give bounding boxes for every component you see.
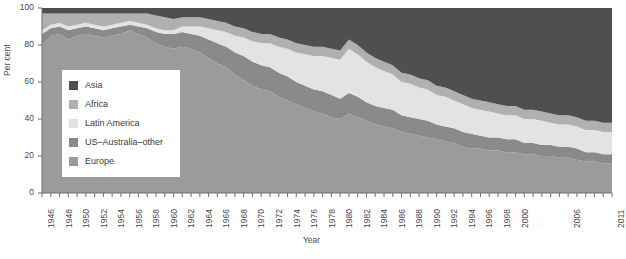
legend-swatch-icon bbox=[69, 100, 78, 109]
legend-swatch-icon bbox=[69, 138, 78, 147]
legend-item: Latin America bbox=[69, 114, 173, 133]
x-tick-label: 1974 bbox=[292, 209, 302, 228]
x-tick-label: 1954 bbox=[116, 209, 126, 228]
x-tick-label: 1994 bbox=[467, 209, 477, 228]
y-tick-label: 60 bbox=[8, 76, 34, 86]
x-tick-label: 1952 bbox=[99, 209, 109, 228]
x-tick-label: 1958 bbox=[151, 209, 161, 228]
y-tick-label: 100 bbox=[8, 2, 34, 12]
x-tick-label: 1984 bbox=[379, 209, 389, 228]
legend-swatch-icon bbox=[69, 119, 78, 128]
x-tick-label: 1968 bbox=[239, 209, 249, 228]
x-tick-label: 1972 bbox=[274, 209, 284, 228]
x-tick-label: 1970 bbox=[256, 209, 266, 228]
y-tick-label: 0 bbox=[8, 187, 34, 197]
x-tick-label: 1976 bbox=[309, 209, 319, 228]
x-tick-label: 1988 bbox=[414, 209, 424, 228]
x-tick-label: 1982 bbox=[362, 209, 372, 228]
legend-item: Asia bbox=[69, 76, 173, 95]
x-tick-label: 1998 bbox=[502, 209, 512, 228]
x-tick-label: 1996 bbox=[484, 209, 494, 228]
y-tick-label: 20 bbox=[8, 150, 34, 160]
x-tick-label: 1966 bbox=[221, 209, 231, 228]
x-axis-title: Year bbox=[0, 235, 623, 245]
legend-item-label: Europe bbox=[85, 157, 114, 166]
x-tick-label: 1950 bbox=[81, 209, 91, 228]
x-tick-label: 1978 bbox=[327, 209, 337, 228]
x-tick-label: 1992 bbox=[449, 209, 459, 228]
y-tick-label: 80 bbox=[8, 39, 34, 49]
legend-item-label: Latin America bbox=[85, 119, 140, 128]
y-axis-title: Per cent bbox=[2, 44, 12, 76]
legend-item-label: US–Australia–other bbox=[85, 138, 163, 147]
x-tick-label: 1980 bbox=[344, 209, 354, 228]
x-tick-label: 1962 bbox=[186, 209, 196, 228]
x-tick-label: 2006 bbox=[572, 209, 582, 228]
x-tick-label: 1990 bbox=[432, 209, 442, 228]
legend-item: US–Australia–other bbox=[69, 133, 173, 152]
x-tick-label: 1956 bbox=[134, 209, 144, 228]
legend-item-label: Africa bbox=[85, 100, 108, 109]
x-tick-label: 1964 bbox=[204, 209, 214, 228]
x-tick-label: 2011 bbox=[616, 210, 626, 228]
legend-item: Africa bbox=[69, 95, 173, 114]
x-tick-label: 1960 bbox=[169, 209, 179, 228]
y-tick-label: 40 bbox=[8, 113, 34, 123]
x-tick-label: 1986 bbox=[397, 209, 407, 228]
legend-swatch-icon bbox=[69, 157, 78, 166]
legend-item: Europe bbox=[69, 152, 173, 171]
x-tick-label: 1948 bbox=[64, 209, 74, 228]
x-tick-label: 1946 bbox=[46, 209, 56, 228]
chart-legend: AsiaAfricaLatin AmericaUS–Australia–othe… bbox=[62, 70, 180, 177]
x-tick-label: 2000 bbox=[520, 209, 530, 228]
legend-swatch-icon bbox=[69, 81, 78, 90]
legend-item-label: Asia bbox=[85, 81, 103, 90]
